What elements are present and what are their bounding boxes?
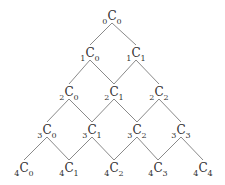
node-2C0: 2C0 xyxy=(58,86,79,98)
node-n-index: 3 xyxy=(82,131,87,140)
edge-line xyxy=(92,99,114,122)
edge-line xyxy=(158,137,181,160)
edge-line xyxy=(114,60,136,84)
node-n-index: 4 xyxy=(59,169,64,178)
edge-line xyxy=(136,60,159,84)
node-symbol: C xyxy=(176,123,185,137)
node-1C1: 1C1 xyxy=(125,47,146,59)
node-3C3: 3C3 xyxy=(170,124,191,136)
node-symbol: C xyxy=(153,161,162,175)
node-3C2: 3C2 xyxy=(126,124,147,136)
edge-line xyxy=(69,60,90,84)
node-k-index: 1 xyxy=(97,131,102,140)
node-0C0: 0C0 xyxy=(101,10,122,22)
node-k-index: 1 xyxy=(119,93,124,102)
node-4C4: 4C4 xyxy=(192,162,213,174)
node-k-index: 4 xyxy=(208,169,213,178)
pascal-triangle-diagram: 0C01C01C12C02C12C23C03C13C23C34C04C14C24… xyxy=(0,0,225,185)
node-2C2: 2C2 xyxy=(148,86,169,98)
edge-line xyxy=(69,99,92,122)
edge-line xyxy=(69,137,92,160)
node-n-index: 3 xyxy=(127,131,132,140)
node-k-index: 3 xyxy=(186,131,191,140)
node-k-index: 1 xyxy=(74,169,79,178)
node-n-index: 0 xyxy=(102,17,107,26)
node-4C2: 4C2 xyxy=(103,162,124,174)
node-n-index: 4 xyxy=(193,169,198,178)
node-n-index: 1 xyxy=(80,54,85,63)
node-symbol: C xyxy=(109,161,118,175)
node-symbol: C xyxy=(64,85,73,99)
node-n-index: 2 xyxy=(59,93,64,102)
node-n-index: 4 xyxy=(14,169,19,178)
node-symbol: C xyxy=(64,161,73,175)
node-k-index: 0 xyxy=(52,131,57,140)
edge-line xyxy=(137,99,159,122)
edge-line xyxy=(114,137,137,160)
node-k-index: 0 xyxy=(117,17,122,26)
node-n-index: 2 xyxy=(149,93,154,102)
edge-line xyxy=(47,137,69,160)
node-symbol: C xyxy=(131,46,140,60)
node-k-index: 0 xyxy=(74,93,79,102)
node-symbol: C xyxy=(42,123,51,137)
node-symbol: C xyxy=(132,123,141,137)
edge-line xyxy=(181,137,203,160)
node-n-index: 4 xyxy=(148,169,153,178)
node-2C1: 2C1 xyxy=(103,86,124,98)
edge-line xyxy=(112,23,136,45)
node-4C3: 4C3 xyxy=(147,162,168,174)
node-3C1: 3C1 xyxy=(81,124,102,136)
node-n-index: 2 xyxy=(104,93,109,102)
edge-line xyxy=(137,137,158,160)
node-4C1: 4C1 xyxy=(58,162,79,174)
edge-line xyxy=(159,99,181,122)
node-k-index: 1 xyxy=(141,54,146,63)
node-symbol: C xyxy=(87,123,96,137)
node-k-index: 3 xyxy=(163,169,168,178)
edge-line xyxy=(47,99,69,122)
node-k-index: 0 xyxy=(29,169,34,178)
node-n-index: 3 xyxy=(171,131,176,140)
node-k-index: 2 xyxy=(142,131,147,140)
node-k-index: 0 xyxy=(95,54,100,63)
edge-line xyxy=(114,99,137,122)
node-n-index: 3 xyxy=(37,131,42,140)
node-n-index: 1 xyxy=(126,54,131,63)
node-3C0: 3C0 xyxy=(36,124,57,136)
node-symbol: C xyxy=(107,9,116,23)
node-symbol: C xyxy=(198,161,207,175)
node-symbol: C xyxy=(154,85,163,99)
node-k-index: 2 xyxy=(119,169,124,178)
node-symbol: C xyxy=(85,46,94,60)
node-symbol: C xyxy=(109,85,118,99)
edge-line xyxy=(90,60,114,84)
node-symbol: C xyxy=(19,161,28,175)
node-1C0: 1C0 xyxy=(79,47,100,59)
node-4C0: 4C0 xyxy=(13,162,34,174)
edge-line xyxy=(24,137,47,160)
edge-line xyxy=(90,23,112,45)
edge-line xyxy=(92,137,114,160)
node-n-index: 4 xyxy=(104,169,109,178)
node-k-index: 2 xyxy=(164,93,169,102)
